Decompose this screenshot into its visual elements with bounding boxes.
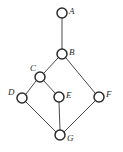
node-label-a: A [69,7,75,16]
edge-c-d [26,81,36,94]
node-b[interactable] [57,49,67,59]
edge-c-e [44,81,55,93]
edge-d-g [26,102,56,132]
node-label-e: E [66,91,72,100]
node-f[interactable] [94,92,104,102]
nodes-group [17,8,104,140]
node-label-f: F [106,90,112,99]
node-d[interactable] [17,93,27,103]
hasse-diagram: ABCDEFG [0,0,123,152]
edge-e-g [59,102,60,130]
node-g[interactable] [55,130,65,140]
edge-f-g [64,101,95,132]
edge-b-f [66,58,95,93]
node-a[interactable] [57,8,67,18]
graph-canvas [0,0,123,152]
node-label-b: B [69,48,75,57]
node-label-d: D [8,88,15,97]
node-label-g: G [67,134,74,143]
edge-b-c [44,58,58,73]
node-c[interactable] [35,72,45,82]
node-label-c: C [30,64,36,73]
node-e[interactable] [54,92,64,102]
